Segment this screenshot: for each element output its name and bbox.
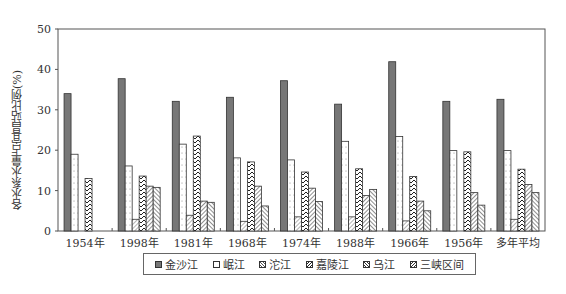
legend-label: 嘉陵江: [316, 256, 349, 272]
legend-item-sanxia: 三峡区间: [410, 256, 464, 272]
bar: [64, 94, 71, 231]
bar: [478, 205, 485, 231]
bar: [450, 151, 457, 231]
bar: [288, 160, 295, 231]
legend-label: 沱江: [269, 256, 291, 272]
bar: [281, 81, 288, 231]
bar: [207, 202, 214, 231]
bar: [349, 217, 356, 231]
bar: [335, 104, 342, 231]
bar: [518, 169, 525, 231]
bar: [226, 97, 233, 231]
bar: [471, 193, 478, 231]
legend-item-jinsha: 金沙江: [155, 256, 198, 272]
y-tick-label: 0: [44, 225, 51, 238]
x-tick-label: 1998年: [120, 236, 159, 250]
bar: [403, 221, 410, 231]
bar: [139, 176, 146, 231]
x-tick-label: 1966年: [390, 236, 429, 250]
x-tick-label: 1968年: [228, 236, 267, 250]
bar: [71, 154, 78, 231]
bar: [443, 101, 450, 231]
legend-swatch-icon: [363, 261, 370, 268]
bar: [193, 136, 200, 231]
bar: [132, 219, 139, 231]
bar: [356, 169, 363, 231]
bar: [295, 217, 302, 231]
bar: [464, 152, 471, 231]
x-tick-label: 1956年: [444, 236, 483, 250]
bar: [261, 206, 268, 231]
legend-label: 三峡区间: [420, 256, 464, 272]
bar: [370, 189, 377, 231]
bar: [247, 162, 254, 231]
bar: [118, 79, 125, 231]
legend: 金沙江 岷江 沱江 嘉陵江 乌江 三峡区间: [143, 253, 476, 275]
y-tick-label: 10: [37, 185, 51, 198]
x-tick-label: 1981年: [174, 236, 213, 250]
bar: [424, 211, 431, 231]
bar: [497, 99, 504, 231]
legend-item-tuojiang: 沱江: [259, 256, 291, 272]
bar: [302, 172, 309, 231]
bar: [146, 186, 153, 231]
bar: [179, 144, 186, 231]
y-tick-label: 50: [37, 23, 51, 36]
bar: [125, 166, 132, 231]
bar: [316, 202, 323, 231]
x-tick-label: 1954年: [66, 236, 105, 250]
x-tick-label: 多年平均: [496, 236, 540, 250]
bar: [254, 186, 261, 231]
bar: [532, 193, 539, 231]
bar: [410, 176, 417, 231]
legend-label: 岷江: [223, 256, 245, 272]
bar: [172, 101, 179, 231]
bar: [525, 185, 532, 231]
bar: [396, 136, 403, 231]
legend-swatch-icon: [259, 261, 266, 268]
y-tick-label: 30: [37, 104, 51, 117]
bar: [200, 201, 207, 231]
legend-swatch-icon: [410, 261, 417, 268]
bar: [153, 187, 160, 231]
legend-swatch-icon: [306, 261, 313, 268]
x-tick-label: 1988年: [336, 236, 375, 250]
legend-swatch-icon: [213, 261, 220, 268]
bar: [240, 221, 247, 231]
bar: [342, 141, 349, 231]
bars-group: [64, 62, 539, 231]
legend-item-wujiang: 乌江: [363, 256, 395, 272]
bar: [417, 201, 424, 231]
legend-item-minjiang: 岷江: [213, 256, 245, 272]
bar: [511, 219, 518, 231]
legend-item-jialingjiang: 嘉陵江: [306, 256, 349, 272]
y-tick-label: 20: [37, 144, 51, 157]
bar-chart: 010203040501954年1998年1981年1968年1974年1988…: [0, 0, 566, 294]
bar: [309, 188, 316, 231]
x-tick-label: 1974年: [282, 236, 321, 250]
bar: [233, 158, 240, 231]
y-tick-label: 40: [37, 63, 51, 76]
legend-label: 乌江: [373, 256, 395, 272]
bar: [389, 62, 396, 231]
legend-label: 金沙江: [165, 256, 198, 272]
legend-swatch-icon: [155, 261, 162, 268]
bar: [186, 215, 193, 231]
bar: [363, 195, 370, 231]
bar: [85, 178, 92, 231]
bar: [504, 151, 511, 231]
